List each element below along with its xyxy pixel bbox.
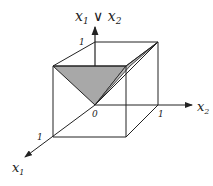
cube-diagram: x1 ∨ x2 x2 x1 0 1 1 1 bbox=[0, 0, 213, 186]
x1-axis bbox=[25, 105, 95, 157]
x1-axis-label: x1 bbox=[12, 160, 24, 177]
origin-label: 0 bbox=[92, 109, 98, 119]
x2-axis-label: x2 bbox=[197, 99, 209, 116]
vertical-one-label: 1 bbox=[79, 37, 85, 47]
vertical-axis-label: x1 ∨ x2 bbox=[75, 8, 122, 26]
x2-one-label: 1 bbox=[158, 109, 164, 119]
x1-one-label: 1 bbox=[37, 132, 43, 142]
